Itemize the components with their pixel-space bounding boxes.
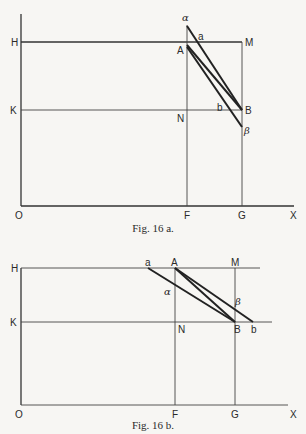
label-H: H: [11, 263, 18, 274]
label-M: M: [231, 257, 239, 268]
figure-16b: H a A M α β K N B b O F G X: [0, 240, 306, 420]
label-b: b: [217, 102, 223, 113]
line-A-b: [175, 268, 253, 322]
label-K: K: [10, 317, 17, 328]
label-N: N: [177, 113, 184, 124]
caption-16a: Fig. 16 a.: [0, 222, 306, 234]
label-B: B: [245, 105, 252, 116]
diagram-16b: H a A M α β K N B b O F G X: [0, 240, 306, 420]
caption-16b: Fig. 16 b.: [0, 419, 306, 431]
label-H: H: [11, 37, 18, 48]
label-beta: β: [234, 296, 241, 307]
label-b: b: [251, 324, 257, 335]
label-alpha: α: [182, 12, 189, 23]
line-A-beta: [187, 47, 242, 127]
line-A-B: [175, 268, 235, 322]
label-alpha: α: [164, 286, 171, 297]
label-O: O: [15, 210, 23, 220]
label-F: F: [184, 210, 190, 220]
label-B: B: [234, 324, 241, 335]
line-A-B: [187, 45, 242, 110]
label-beta: β: [243, 125, 250, 136]
label-X: X: [290, 210, 297, 220]
line-a-B: [148, 268, 235, 322]
line-alpha-B: [187, 26, 242, 110]
figure-16a: α a H M A K N b B β O F G X: [0, 0, 306, 220]
label-K: K: [10, 105, 17, 116]
label-a: a: [145, 257, 151, 268]
label-A: A: [171, 257, 178, 268]
diagram-16a: α a H M A K N b B β O F G X: [0, 0, 306, 220]
label-a: a: [198, 31, 204, 42]
label-A: A: [177, 45, 184, 56]
label-N: N: [178, 324, 185, 335]
label-G: G: [238, 210, 246, 220]
label-M: M: [245, 37, 253, 48]
